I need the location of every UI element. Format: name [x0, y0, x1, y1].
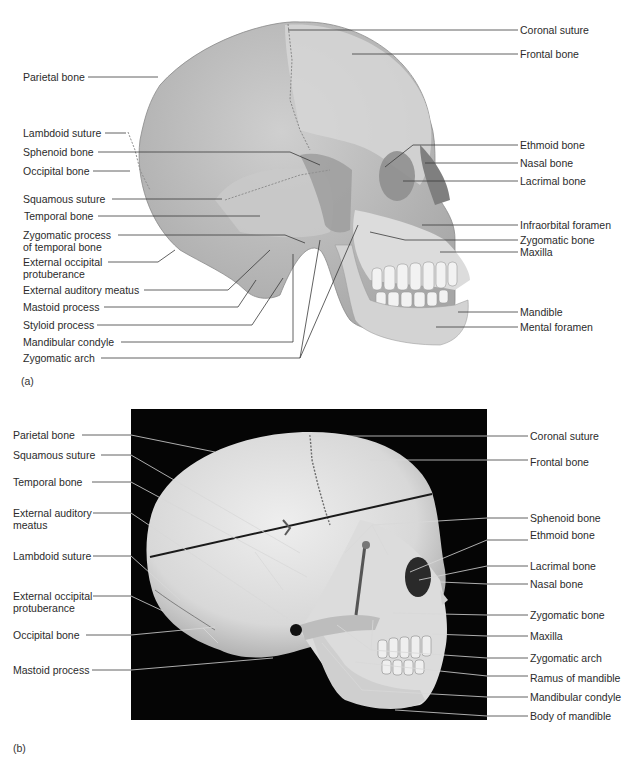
- label-b-body-of-mandible: Body of mandible: [530, 710, 611, 722]
- label-b-external-occipital-protuberance: External occipital protuberance: [13, 590, 95, 614]
- label-b-ramus-of-mandible: Ramus of mandible: [530, 672, 620, 684]
- label-b-external-auditory-meatus: External auditory meatus: [13, 507, 93, 531]
- label-b-zygomatic-arch: Zygomatic arch: [530, 652, 602, 664]
- label-b-frontal-bone: Frontal bone: [530, 456, 589, 468]
- panel-label-b: (b): [13, 742, 26, 754]
- label-b-mastoid-process: Mastoid process: [13, 664, 89, 676]
- label-b-lambdoid-suture: Lambdoid suture: [13, 550, 91, 562]
- label-b-nasal-bone: Nasal bone: [530, 578, 583, 590]
- leader-lines-b-right: [487, 436, 528, 716]
- label-b-sphenoid-bone: Sphenoid bone: [530, 512, 601, 524]
- label-b-ethmoid-bone: Ethmoid bone: [530, 529, 595, 541]
- label-b-temporal-bone: Temporal bone: [13, 476, 82, 488]
- label-b-maxilla: Maxilla: [530, 630, 563, 642]
- label-b-parietal-bone: Parietal bone: [13, 429, 75, 441]
- label-b-lacrimal-bone: Lacrimal bone: [530, 560, 596, 572]
- label-b-mandibular-condyle: Mandibular condyle: [530, 691, 621, 703]
- label-b-zygomatic-bone: Zygomatic bone: [530, 609, 605, 621]
- label-b-occipital-bone: Occipital bone: [13, 629, 80, 641]
- label-b-squamous-suture: Squamous suture: [13, 449, 95, 461]
- label-b-coronal-suture: Coronal suture: [530, 430, 599, 442]
